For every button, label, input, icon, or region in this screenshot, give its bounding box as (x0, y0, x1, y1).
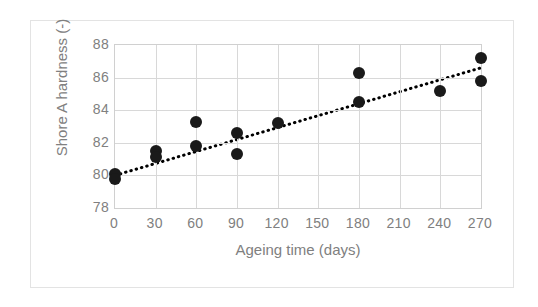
data-point (190, 116, 202, 128)
gridline-horizontal (115, 78, 481, 79)
y-tick-label: 78 (69, 199, 109, 215)
y-tick-label: 80 (69, 166, 109, 182)
x-tick-label: 270 (458, 215, 502, 231)
data-point (353, 96, 365, 108)
gridline-horizontal (115, 175, 481, 176)
data-point (272, 117, 284, 129)
gridline-horizontal (115, 110, 481, 111)
x-tick-label: 60 (173, 215, 217, 231)
data-point (434, 85, 446, 97)
x-tick-label: 120 (255, 215, 299, 231)
x-tick-label: 30 (133, 215, 177, 231)
x-axis-title: Ageing time (days) (114, 241, 482, 258)
gridline-vertical (156, 45, 157, 208)
x-tick-label: 0 (92, 215, 136, 231)
data-point (475, 75, 487, 87)
gridline-horizontal (115, 143, 481, 144)
y-tick-label: 82 (69, 134, 109, 150)
gridline-vertical (440, 45, 441, 208)
x-tick-label: 90 (214, 215, 258, 231)
x-tick-label: 180 (336, 215, 380, 231)
y-tick-label: 88 (69, 36, 109, 52)
data-point (475, 52, 487, 64)
x-tick-label: 240 (417, 215, 461, 231)
plot-area (114, 44, 482, 209)
y-tick-label: 86 (69, 69, 109, 85)
data-point (231, 127, 243, 139)
x-axis-tick-labels: 0306090120150180210240270 (114, 215, 482, 237)
data-point (353, 67, 365, 79)
gridline-vertical (400, 45, 401, 208)
data-point (109, 173, 121, 185)
x-tick-label: 150 (295, 215, 339, 231)
trendline (115, 45, 481, 208)
gridline-vertical (318, 45, 319, 208)
chart-figure: Shore A hardness (-) 788082848688 030609… (30, 20, 514, 288)
y-tick-label: 84 (69, 101, 109, 117)
y-axis-tick-labels: 788082848688 (67, 44, 109, 209)
x-tick-label: 210 (377, 215, 421, 231)
